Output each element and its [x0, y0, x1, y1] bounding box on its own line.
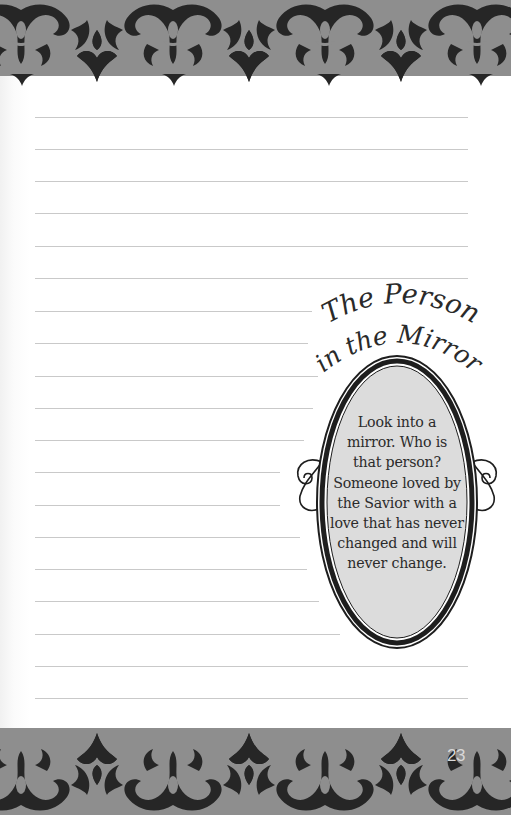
journal-line	[35, 440, 304, 441]
bottom-damask-border	[0, 724, 511, 815]
message-line: mirror. Who is	[322, 432, 472, 452]
journal-line	[35, 601, 319, 602]
message-line: love that has never	[322, 513, 472, 533]
journal-line	[35, 569, 307, 570]
message-line: Someone loved by	[322, 473, 472, 493]
journal-line	[35, 149, 468, 150]
journal-line	[35, 343, 308, 344]
message-line: that person?	[322, 452, 472, 472]
top-damask-border	[0, 0, 511, 86]
journal-line	[35, 117, 468, 118]
message-line: Look into a	[322, 412, 472, 432]
journal-line	[35, 311, 312, 312]
journal-line	[35, 505, 280, 506]
journal-line	[35, 278, 468, 279]
journal-line	[35, 408, 313, 409]
journal-line	[35, 213, 468, 214]
journal-line	[35, 537, 300, 538]
page-number: 23	[447, 746, 465, 766]
journal-line	[35, 698, 468, 699]
journal-line	[35, 246, 468, 247]
message-line: never change.	[322, 553, 472, 573]
journal-line	[35, 666, 468, 667]
journal-line	[35, 376, 318, 377]
mirror-message: Look into a mirror. Who is that person? …	[322, 412, 472, 574]
journal-page: The Person in the Mirror	[0, 0, 511, 815]
message-line: the Savior with a	[322, 493, 472, 513]
message-line: changed and will	[322, 533, 472, 553]
journal-line	[35, 181, 468, 182]
journal-line	[35, 472, 280, 473]
